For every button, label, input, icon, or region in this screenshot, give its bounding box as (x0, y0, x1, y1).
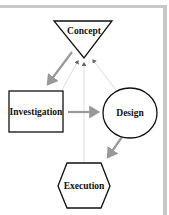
process-diagram: Concept Investigation Design Execution (0, 0, 169, 215)
feedback-investigation-to-concept (62, 61, 78, 90)
arrow-design-to-execution (108, 137, 122, 157)
node-label-concept: Concept (67, 26, 102, 36)
node-label-investigation: Investigation (10, 107, 64, 117)
node-design: Design (103, 88, 157, 138)
node-investigation: Investigation (9, 91, 63, 132)
node-execution: Execution (58, 163, 110, 208)
node-concept: Concept (54, 21, 112, 58)
diagram-canvas: Concept Investigation Design Execution (0, 0, 169, 215)
node-label-design: Design (116, 108, 144, 118)
node-label-execution: Execution (64, 181, 105, 191)
feedback-design-to-concept (93, 60, 116, 90)
